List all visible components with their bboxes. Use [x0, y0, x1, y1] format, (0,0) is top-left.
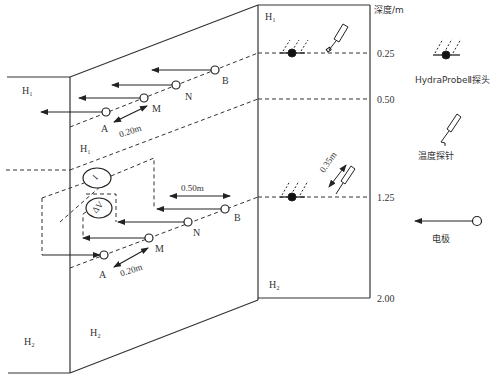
temp-probe-1-25 — [329, 165, 355, 194]
electrode-icon — [415, 217, 482, 226]
lower-electrode-a-label: A — [99, 270, 106, 280]
depth-axis-title: 深度/m — [374, 6, 404, 15]
depth-lines — [6, 53, 370, 268]
upper-electrode-array — [41, 66, 219, 122]
upper-electrode-a-label: A — [101, 124, 108, 134]
hydraprobe-icon — [433, 39, 461, 59]
electrode-probe-layout-diagram: H₁ H₁ H₁ H₂ H₂ H₂ B N M A 0.20m B N M A … — [0, 0, 495, 380]
temperature-probe-icon — [441, 114, 461, 146]
upper-electrode-n-label: N — [185, 92, 192, 102]
upper-electrode-b-label: B — [222, 76, 229, 86]
depth-tick-0-50: 0.50 — [377, 95, 395, 105]
lower-spacing-nb-label: 0.50m — [181, 184, 204, 193]
layer-h1-profile: H₁ — [265, 12, 276, 22]
layer-h1-slope: H₁ — [80, 144, 91, 154]
layer-h1-left-outer: H₁ — [22, 86, 33, 96]
upper-electrode-m-label: M — [152, 104, 161, 114]
depth-tick-0-25: 0.25 — [377, 49, 395, 59]
temp-probe-0-25 — [326, 24, 348, 52]
layer-h2-slope: H₂ — [90, 328, 101, 338]
legend-temperature-probe-label: 温度探针 — [418, 152, 454, 161]
lower-electrode-m-label: M — [155, 244, 164, 254]
legend-electrode-label: 电极 — [432, 235, 450, 244]
layer-h2-profile: H₂ — [269, 280, 280, 290]
hydraprobe-1-25 — [280, 181, 308, 201]
lower-electrode-n-label: N — [193, 228, 200, 238]
depth-tick-1-25: 1.25 — [377, 193, 395, 203]
depth-tick-2-00: 2.00 — [377, 294, 395, 304]
hydraprobe-0-25 — [280, 40, 308, 57]
lower-electrode-b-label: B — [234, 213, 241, 223]
layer-h2-left-outer: H₂ — [24, 337, 35, 347]
legend-hydraprobe-label: HydraProbeⅡ探头 — [415, 76, 490, 85]
